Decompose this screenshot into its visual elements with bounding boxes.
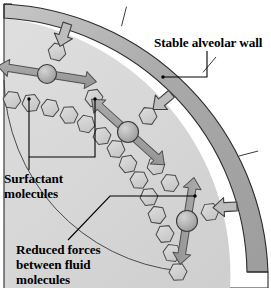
diagram-canvas: Stable alveolar wall Surfactant molecule… [0,0,271,288]
label-stable-alveolar-wall: Stable alveolar wall [154,35,263,50]
label-reduced-forces-line1: Reduced forces [16,242,100,257]
label-reduced-forces-line3: molecules [16,272,70,287]
leader-dot-surfactant-a [27,97,30,100]
label-surfactant-line2: molecules [4,186,58,201]
leader-dot-reduced-forces [193,194,196,197]
surfactant-molecule [118,122,139,143]
leader-dot-wall [161,75,164,78]
label-surfactant-line1: Surfactant [4,171,64,186]
leader-dot-surfactant-b [93,97,96,100]
label-reduced-forces-line2: between fluid [16,257,91,272]
surfactant-molecule [177,211,198,232]
alveolar-wall-figure: Stable alveolar wall Surfactant molecule… [0,0,271,288]
surfactant-molecule [38,65,57,84]
